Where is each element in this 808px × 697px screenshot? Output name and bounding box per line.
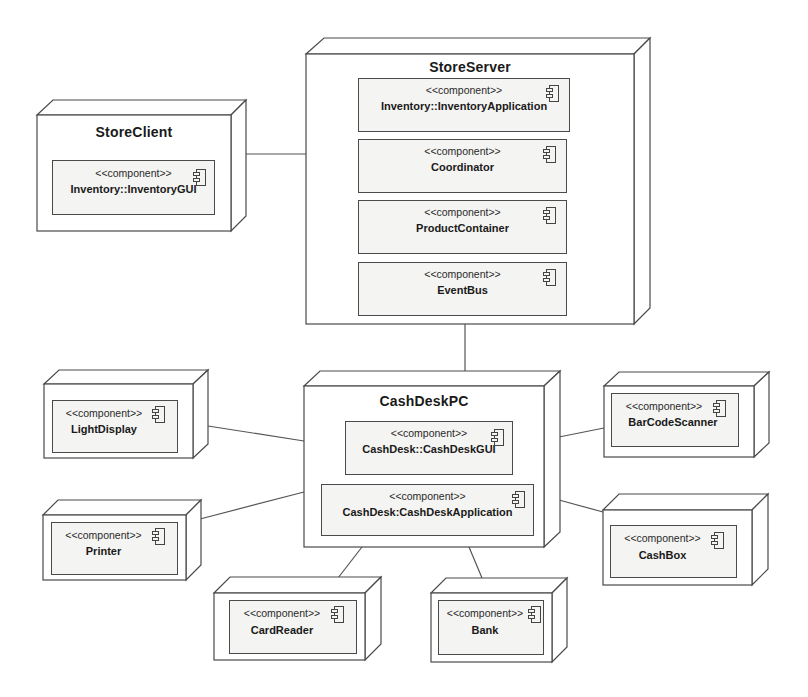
component-stereotype: <<component>> bbox=[322, 490, 533, 502]
component-name: Coordinator bbox=[359, 161, 566, 173]
component-name: ProductContainer bbox=[359, 222, 566, 234]
component-name: CashDesk:CashDeskApplication bbox=[322, 506, 533, 518]
component-icon bbox=[331, 606, 344, 623]
node-title: StoreClient bbox=[37, 124, 231, 140]
node-cardreader[interactable]: <<component>> CardReader bbox=[214, 577, 381, 661]
node-barcodescanner[interactable]: <<component>> BarCodeScanner bbox=[604, 372, 769, 458]
component-name: EventBus bbox=[359, 284, 566, 296]
component-event-bus[interactable]: <<component>> EventBus bbox=[358, 262, 567, 316]
component-icon bbox=[512, 491, 525, 508]
component-name: CashBox bbox=[611, 549, 714, 561]
component-stereotype: <<component>> bbox=[359, 145, 566, 157]
component-name: CardReader bbox=[230, 624, 334, 636]
component-name: LightDisplay bbox=[53, 423, 155, 435]
node-bank[interactable]: <<component>> Bank bbox=[431, 578, 567, 663]
component-product-container[interactable]: <<component>> ProductContainer bbox=[358, 200, 567, 254]
component-coordinator[interactable]: <<component>> Coordinator bbox=[358, 139, 567, 193]
node-storeserver[interactable]: StoreServer <<component>> Inventory::Inv… bbox=[306, 38, 650, 325]
component-stereotype: <<component>> bbox=[439, 607, 531, 619]
component-stereotype: <<component>> bbox=[359, 268, 566, 280]
component-stereotype: <<component>> bbox=[359, 206, 566, 218]
component-icon bbox=[546, 85, 559, 102]
component-icon bbox=[152, 528, 165, 545]
node-cashdeskpc[interactable]: CashDeskPC <<component>> CashDesk::CashD… bbox=[304, 371, 560, 548]
component-icon bbox=[193, 169, 206, 186]
component-name: CashDesk::CashDeskGUI bbox=[346, 443, 512, 455]
component-icon bbox=[152, 406, 165, 423]
link-barcodescanner-cashdeskpc bbox=[559, 428, 604, 437]
component-barcode-scanner[interactable]: <<component>> BarCodeScanner bbox=[611, 393, 739, 447]
component-icon bbox=[528, 606, 541, 623]
component-inventory-gui[interactable]: <<component>> Inventory::InventoryGUI bbox=[52, 160, 215, 215]
link-lightdisplay-cashdeskpc bbox=[208, 426, 304, 441]
component-icon bbox=[543, 269, 556, 286]
component-stereotype: <<component>> bbox=[230, 607, 334, 619]
component-name: Printer bbox=[52, 545, 155, 557]
component-icon bbox=[491, 429, 504, 446]
component-icon bbox=[711, 532, 724, 549]
component-stereotype: <<component>> bbox=[612, 400, 716, 412]
node-lightdisplay[interactable]: <<component>> LightDisplay bbox=[44, 370, 208, 459]
component-bank[interactable]: <<component>> Bank bbox=[438, 600, 544, 655]
component-icon bbox=[543, 207, 556, 224]
component-stereotype: <<component>> bbox=[359, 84, 569, 96]
component-stereotype: <<component>> bbox=[611, 532, 714, 544]
node-storeclient[interactable]: StoreClient <<component>> Inventory::Inv… bbox=[37, 100, 246, 231]
component-printer[interactable]: <<component>> Printer bbox=[51, 522, 178, 575]
component-stereotype: <<component>> bbox=[52, 529, 155, 541]
link-cardreader-cashdeskpc bbox=[338, 547, 362, 578]
component-name: Inventory::InventoryGUI bbox=[53, 183, 214, 195]
node-cashbox[interactable]: <<component>> CashBox bbox=[603, 494, 768, 586]
component-icon bbox=[543, 146, 556, 163]
component-stereotype: <<component>> bbox=[53, 167, 214, 179]
component-cashdesk-application[interactable]: <<component>> CashDesk:CashDeskApplicati… bbox=[321, 484, 534, 536]
node-title: StoreServer bbox=[306, 59, 634, 75]
link-cashbox-cashdeskpc bbox=[559, 500, 603, 512]
link-printer-cashdeskpc bbox=[200, 492, 304, 519]
link-bank-cashdeskpc bbox=[469, 547, 482, 578]
node-printer[interactable]: <<component>> Printer bbox=[43, 500, 201, 581]
component-cashdesk-gui[interactable]: <<component>> CashDesk::CashDeskGUI bbox=[345, 421, 513, 475]
component-icon bbox=[713, 400, 726, 417]
component-name: BarCodeScanner bbox=[612, 416, 734, 428]
component-stereotype: <<component>> bbox=[53, 407, 155, 419]
component-stereotype: <<component>> bbox=[346, 427, 512, 439]
node-title: CashDeskPC bbox=[304, 393, 544, 409]
component-cash-box[interactable]: <<component>> CashBox bbox=[610, 525, 737, 578]
component-name: Bank bbox=[439, 624, 531, 636]
component-card-reader[interactable]: <<component>> CardReader bbox=[229, 600, 357, 654]
component-inventory-application[interactable]: <<component>> Inventory::InventoryApplic… bbox=[358, 78, 570, 132]
component-light-display[interactable]: <<component>> LightDisplay bbox=[52, 400, 178, 453]
component-name: Inventory::InventoryApplication bbox=[359, 100, 569, 112]
